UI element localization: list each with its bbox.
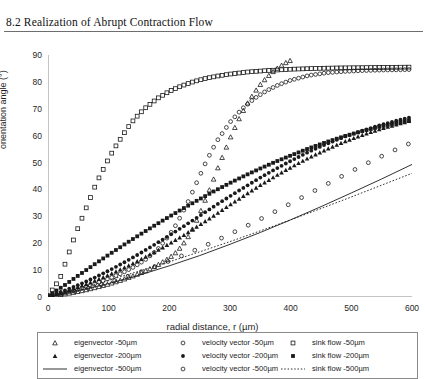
y-tick-label: 10 — [18, 265, 42, 275]
legend-item: sink flow -50µm — [280, 336, 423, 349]
legend-marker-solid-line-icon — [42, 364, 68, 374]
header-divider — [4, 31, 423, 32]
legend-item: sink flow -200µm — [280, 349, 423, 362]
legend-item: velocity vector -200µm — [170, 349, 280, 362]
plot-canvas — [48, 55, 412, 297]
legend-label: velocity vector -50µm — [202, 338, 274, 347]
legend-marker-open-triangle-icon — [42, 338, 68, 348]
legend-marker-open-circle-icon — [170, 364, 196, 374]
x-tick-label: 100 — [94, 303, 124, 313]
y-tick-label: 20 — [18, 238, 42, 248]
legend-marker-open-circle-icon — [170, 338, 196, 348]
plot-area — [48, 55, 412, 297]
legend-item: sink flow -500µm — [280, 362, 423, 375]
y-tick-label: 0 — [18, 292, 42, 302]
legend-label: sink flow -200µm — [312, 351, 369, 360]
page-header: 8.2 Realization of Abrupt Contraction Fl… — [0, 16, 425, 32]
series-eigenvector-200-m — [48, 119, 411, 297]
chart-figure: orientation angle (°) radial distance, r… — [0, 44, 425, 379]
x-axis-title: radial distance, r (µm) — [0, 321, 425, 332]
legend-marker-filled-circle-icon — [170, 351, 196, 361]
y-tick-label: 90 — [18, 50, 42, 60]
legend-marker-dotted-line-icon — [280, 364, 306, 374]
y-tick-label: 60 — [18, 131, 42, 141]
x-tick-label: 300 — [215, 303, 245, 313]
x-tick-label: 400 — [276, 303, 306, 313]
series-velocity-vector-200-m — [48, 116, 411, 297]
legend-label: sink flow -500µm — [312, 364, 369, 373]
x-tick-label: 500 — [336, 303, 366, 313]
x-tick-label: 600 — [397, 303, 425, 313]
legend-label: sink flow -50µm — [312, 338, 365, 347]
legend-label: velocity vector -500µm — [202, 364, 278, 373]
legend-marker-filled-triangle-icon — [42, 351, 68, 361]
y-axis-title: orientation angle (°) — [0, 70, 8, 149]
y-tick-label: 80 — [18, 77, 42, 87]
chart-legend: eigenvector -50µmvelocity vector -50µmsi… — [37, 332, 418, 379]
y-tick-label: 70 — [18, 104, 42, 114]
y-tick-label: 30 — [18, 211, 42, 221]
legend-label: eigenvector -500µm — [74, 364, 141, 373]
series-sink-flow-200-m — [48, 119, 411, 297]
legend-item: velocity vector -50µm — [170, 336, 280, 349]
legend-grid: eigenvector -50µmvelocity vector -50µmsi… — [38, 333, 417, 378]
page-title: 8.2 Realization of Abrupt Contraction Fl… — [0, 16, 425, 28]
legend-label: eigenvector -200µm — [74, 351, 141, 360]
legend-label: eigenvector -50µm — [74, 338, 137, 347]
y-tick-label: 40 — [18, 184, 42, 194]
x-tick-label: 200 — [154, 303, 184, 313]
legend-item: eigenvector -200µm — [42, 349, 170, 362]
x-tick-label: 0 — [33, 303, 63, 313]
legend-item: eigenvector -500µm — [42, 362, 170, 375]
legend-marker-filled-square-icon — [280, 351, 306, 361]
y-tick-label: 50 — [18, 158, 42, 168]
legend-item: eigenvector -50µm — [42, 336, 170, 349]
legend-marker-open-square-icon — [280, 338, 306, 348]
legend-label: velocity vector -200µm — [202, 351, 278, 360]
legend-item: velocity vector -500µm — [170, 362, 280, 375]
